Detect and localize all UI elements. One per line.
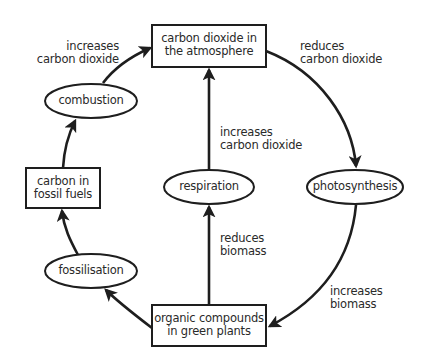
node-atmosphere-line2: the atmosphere — [152, 45, 266, 58]
edge-fossilisation-to-fossil-fuels — [62, 211, 78, 255]
node-respiration-label: respiration — [164, 180, 254, 193]
node-organic-line2: in green plants — [152, 325, 266, 338]
edge-label-organic-to-respiration: reduces biomass — [220, 232, 266, 258]
node-fossilisation-label: fossilisation — [45, 264, 137, 277]
edge-label-line2: biomass — [220, 245, 266, 258]
edge-label-combustion-to-atmosphere: increases carbon dioxide — [30, 40, 119, 66]
node-fossil-fuels-label: carbon in fossil fuels — [26, 175, 100, 201]
node-atmosphere-label: carbon dioxide in the atmosphere — [152, 32, 266, 58]
edge-label-respiration-to-atmosphere: increases carbon dioxide — [220, 126, 302, 152]
node-combustion-label: combustion — [45, 94, 137, 107]
edge-fossil-fuels-to-combustion — [63, 121, 75, 168]
edge-label-atmosphere-to-photosynthesis: reduces carbon dioxide — [300, 40, 382, 66]
edge-label-line2: carbon dioxide — [220, 139, 302, 152]
edge-label-line2: biomass — [330, 298, 383, 311]
edge-label-line2: carbon dioxide — [300, 53, 382, 66]
edge-organic-to-fossilisation — [106, 290, 152, 328]
node-organic-label: organic compounds in green plants — [152, 312, 266, 338]
edge-label-line2: carbon dioxide — [30, 53, 119, 66]
node-fossil-fuels-line2: fossil fuels — [26, 188, 100, 201]
edge-label-photosynthesis-to-organic: increases biomass — [330, 285, 383, 311]
node-photosynthesis-label: photosynthesis — [307, 180, 403, 193]
